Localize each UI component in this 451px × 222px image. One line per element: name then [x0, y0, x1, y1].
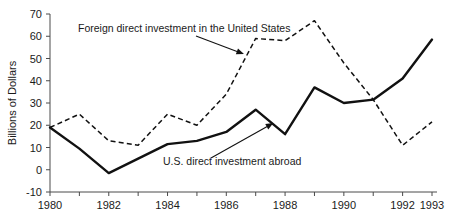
x-tick-label: 1992: [390, 199, 414, 211]
series-line-foreign-direct-investment: [50, 21, 432, 146]
line-chart: -10010203040506070 198019821984198619881…: [0, 0, 451, 222]
annotation-arrow-us: [211, 126, 268, 158]
annotation-foreign-direct-investment: Foreign direct investment in the United …: [78, 22, 290, 54]
y-tick-label: 10: [30, 142, 42, 154]
annotation-label-foreign: Foreign direct investment in the United …: [78, 22, 290, 34]
y-tick-label: 70: [30, 8, 42, 20]
annotation-label-us: U.S. direct investment abroad: [163, 155, 301, 167]
y-axis-title: Billions of Dollars: [6, 60, 18, 145]
x-tick-label: 1984: [155, 199, 179, 211]
x-tick-label: 1990: [332, 199, 356, 211]
y-tick-label: 40: [30, 75, 42, 87]
y-tick-label: 50: [30, 53, 42, 65]
y-tick-label: -10: [26, 186, 42, 198]
annotation-arrowhead-foreign: [236, 49, 244, 55]
y-axis: -10010203040506070: [26, 8, 50, 198]
x-tick-label: 1986: [214, 199, 238, 211]
y-axis-ticks: [46, 14, 50, 192]
x-axis-ticks: [50, 192, 432, 196]
y-tick-label: 60: [30, 30, 42, 42]
chart-container: -10010203040506070 198019821984198619881…: [0, 0, 451, 222]
y-axis-tick-labels: -10010203040506070: [26, 8, 42, 198]
x-tick-label: 1980: [38, 199, 62, 211]
y-tick-label: 20: [30, 119, 42, 131]
annotation-arrowhead-us: [265, 123, 273, 129]
x-axis: 19801982198419861988199019921993: [38, 192, 444, 211]
x-tick-label: 1982: [97, 199, 121, 211]
series-line-us-direct-investment: [50, 40, 432, 174]
x-axis-tick-labels: 19801982198419861988199019921993: [38, 199, 444, 211]
y-tick-label: 30: [30, 97, 42, 109]
y-tick-label: 0: [36, 164, 42, 176]
x-tick-label: 1993: [420, 199, 444, 211]
annotation-arrow-foreign: [196, 36, 238, 52]
x-tick-label: 1988: [273, 199, 297, 211]
